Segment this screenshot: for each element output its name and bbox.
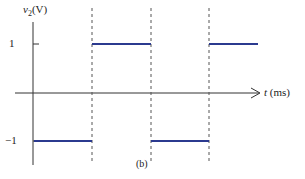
x-axis-label: t (ms) xyxy=(264,86,290,98)
x-unit: (ms) xyxy=(270,86,290,98)
x-symbol: t xyxy=(264,86,267,98)
waveform-plot xyxy=(0,0,305,179)
y-unit: (V) xyxy=(32,3,47,15)
y-tick-label-neg: −1 xyxy=(5,134,17,146)
figure-caption: (b) xyxy=(136,158,148,169)
y-tick-label-pos: 1 xyxy=(9,37,15,49)
y-axis-label: v2(V) xyxy=(23,3,47,18)
